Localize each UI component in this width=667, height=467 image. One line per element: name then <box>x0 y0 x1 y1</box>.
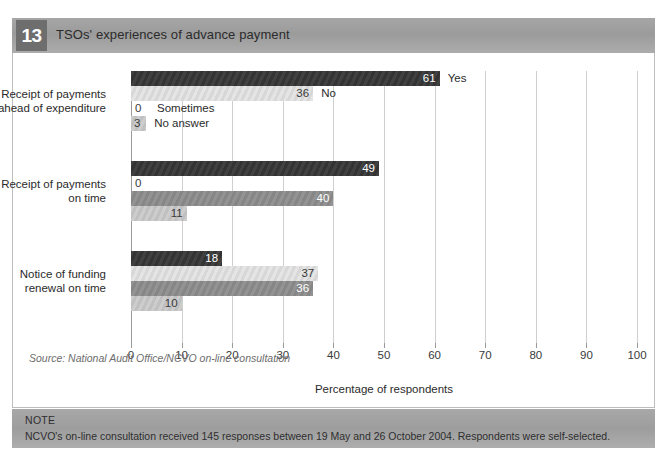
x-tick-label-80: 80 <box>529 349 542 361</box>
bar-group: 61Yes36No0Sometimes3No answer <box>131 71 637 131</box>
bar-group: 4904011 <box>131 161 637 221</box>
bar-no[interactable] <box>131 266 318 281</box>
tick-mark-30 <box>283 343 284 348</box>
bar-yes[interactable] <box>131 161 379 176</box>
tick-mark-80 <box>536 343 537 348</box>
bar-value-label: 61 <box>418 71 436 86</box>
figure-container: 13 TSOs' experiences of advance payment … <box>12 18 655 448</box>
series-label-sometimes: Sometimes <box>157 101 215 116</box>
bar-row: 0 <box>131 176 637 191</box>
tick-mark-40 <box>333 343 334 348</box>
bar-row: 40 <box>131 191 637 206</box>
bar-value-label: 0 <box>135 176 141 191</box>
bar-sometimes[interactable] <box>131 281 313 296</box>
tick-mark-0 <box>131 343 132 348</box>
source-note: Source: National Audit Office/NCVO on-li… <box>29 352 290 364</box>
figure-title: TSOs' experiences of advance payment <box>56 27 290 42</box>
bar-row: 36 <box>131 281 637 296</box>
bar-value-label: 18 <box>200 251 218 266</box>
tick-mark-10 <box>182 343 183 348</box>
gridline-100 <box>637 71 638 343</box>
bar-row: 11 <box>131 206 637 221</box>
series-label-no: No <box>321 86 336 101</box>
category-label: Receipt of paymentsahead of expenditure <box>0 87 106 115</box>
bar-row: 18 <box>131 251 637 266</box>
x-axis-title: Percentage of respondents <box>131 383 637 395</box>
bar-value-label: 0 <box>135 101 141 116</box>
tick-mark-60 <box>435 343 436 348</box>
bar-value-label: 36 <box>291 281 309 296</box>
category-label-line: ahead of expenditure <box>0 101 106 115</box>
note-label: NOTE <box>25 414 55 426</box>
bar-row: 49 <box>131 161 637 176</box>
bar-row: 10 <box>131 296 637 311</box>
figure-number-badge: 13 <box>16 20 47 51</box>
category-label-line: Receipt of payments <box>0 177 106 191</box>
bar-no[interactable] <box>131 86 313 101</box>
figure-header: 13 TSOs' experiences of advance payment <box>12 18 655 53</box>
series-label-yes: Yes <box>448 71 467 86</box>
tick-mark-70 <box>485 343 486 348</box>
note-text: NCVO's on-line consultation received 145… <box>25 430 610 442</box>
x-tick-label-60: 60 <box>428 349 441 361</box>
bar-value-label: 40 <box>311 191 329 206</box>
tick-mark-50 <box>384 343 385 348</box>
bar-yes[interactable] <box>131 71 440 86</box>
category-label-line: on time <box>0 191 106 205</box>
bar-row: 0Sometimes <box>131 101 637 116</box>
x-tick-label-50: 50 <box>378 349 391 361</box>
category-label-line: Receipt of payments <box>0 87 106 101</box>
bar-row: 37 <box>131 266 637 281</box>
category-label: Receipt of paymentson time <box>0 177 106 205</box>
bar-group: 18373610 <box>131 251 637 311</box>
bar-value-label: 11 <box>165 206 183 221</box>
x-tick-label-90: 90 <box>580 349 593 361</box>
tick-mark-100 <box>637 343 638 348</box>
bar-row: 61Yes <box>131 71 637 86</box>
bar-row: 36No <box>131 86 637 101</box>
bar-value-label: 49 <box>357 161 375 176</box>
series-label-no-answer: No answer <box>154 116 209 131</box>
bar-value-label: 10 <box>160 296 178 311</box>
bar-value-label: 3 <box>134 116 140 131</box>
x-tick-label-100: 100 <box>627 349 646 361</box>
category-label: Notice of fundingrenewal on time <box>0 267 106 295</box>
plot-area: 0102030405060708090100 61Yes36No0Sometim… <box>131 71 637 343</box>
category-label-line: Notice of funding <box>0 267 106 281</box>
chart-panel: 0102030405060708090100 61Yes36No0Sometim… <box>12 53 655 408</box>
bar-value-label: 37 <box>296 266 314 281</box>
bar-sometimes[interactable] <box>131 191 333 206</box>
x-tick-label-40: 40 <box>327 349 340 361</box>
tick-mark-90 <box>586 343 587 348</box>
note-band: NOTE NCVO's on-line consultation receive… <box>12 409 655 448</box>
x-tick-label-70: 70 <box>479 349 492 361</box>
category-label-line: renewal on time <box>0 281 106 295</box>
tick-mark-20 <box>232 343 233 348</box>
bar-row: 3No answer <box>131 116 637 131</box>
bar-value-label: 36 <box>291 86 309 101</box>
